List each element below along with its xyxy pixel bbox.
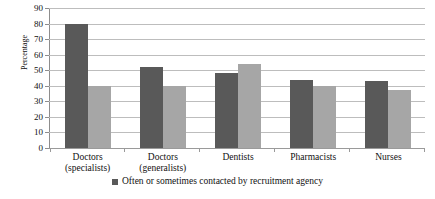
x-axis-category-label: Doctors(generalists): [125, 152, 200, 174]
bar-group: [275, 8, 350, 148]
bar-group: [50, 8, 125, 148]
bar: [313, 86, 336, 148]
bar-group: [200, 8, 275, 148]
bar: [388, 90, 411, 148]
legend-item-label: Often or sometimes contacted by recruitm…: [122, 176, 323, 187]
legend-swatch-icon: [112, 179, 118, 185]
y-axis-title: Percentage: [20, 18, 29, 88]
y-axis-tick-mark: [45, 70, 49, 71]
y-axis-tick-mark: [45, 148, 49, 149]
bar: [215, 73, 238, 148]
x-axis-category-label: Pharmacists: [276, 152, 351, 174]
bar-group: [125, 8, 200, 148]
plot-area: 9080706050403020100: [49, 8, 425, 148]
y-axis-tick-label: 80: [34, 20, 43, 29]
bar-groups: [50, 8, 425, 148]
gridline: [49, 148, 425, 149]
x-axis-category-label: Doctors(specialists): [50, 152, 125, 174]
y-axis-tick-mark: [45, 39, 49, 40]
bar: [163, 86, 186, 148]
y-axis-tick-label: 10: [34, 128, 43, 137]
y-axis-tick-label: 20: [34, 113, 43, 122]
bar: [140, 67, 163, 148]
bar-chart: Percentage 9080706050403020100 Doctors(s…: [0, 0, 435, 199]
y-axis-tick-mark: [45, 101, 49, 102]
bar: [238, 64, 261, 148]
y-axis-tick-label: 70: [34, 35, 43, 44]
chart-legend: Often or sometimes contacted by recruitm…: [0, 176, 435, 187]
y-axis-tick-mark: [45, 132, 49, 133]
y-axis-tick-mark: [45, 8, 49, 9]
y-axis-tick-label: 30: [34, 97, 43, 106]
y-axis-tick-mark: [45, 55, 49, 56]
bar-group: [350, 8, 425, 148]
y-axis-tick-label: 50: [34, 66, 43, 75]
y-axis-tick-label: 60: [34, 51, 43, 60]
y-axis-tick-mark: [45, 86, 49, 87]
y-axis-tick-mark: [45, 24, 49, 25]
bar: [88, 86, 111, 148]
y-axis-tick-label: 90: [34, 4, 43, 13]
x-axis-category-labels: Doctors(specialists)Doctors(generalists)…: [50, 152, 426, 174]
bar: [290, 80, 313, 148]
bar: [65, 24, 88, 148]
y-axis-tick-mark: [45, 117, 49, 118]
y-axis-tick-label: 40: [34, 82, 43, 91]
bar: [365, 81, 388, 148]
x-axis-category-label: Nurses: [351, 152, 426, 174]
y-axis-tick-label: 0: [39, 144, 44, 153]
x-axis-category-label: Dentists: [200, 152, 275, 174]
